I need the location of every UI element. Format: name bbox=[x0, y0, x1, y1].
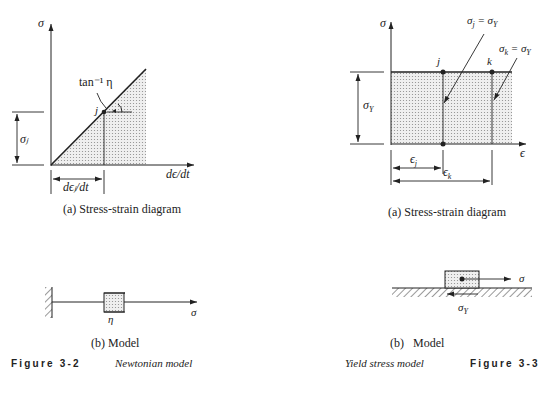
point-j bbox=[441, 70, 446, 75]
newtonian-dashpot-model bbox=[45, 287, 197, 318]
yield-friction-block-model bbox=[392, 271, 532, 297]
ground-hatch bbox=[392, 288, 532, 297]
left-force-label: σ bbox=[191, 306, 196, 318]
right-caption-b: (b) Model bbox=[390, 336, 444, 351]
left-caption-b: (b) Model bbox=[91, 336, 139, 351]
point-k-label: k bbox=[487, 55, 492, 67]
right-figure-number: Figure 3-3 bbox=[470, 358, 540, 369]
left-caption-a: (a) Stress-strain diagram bbox=[63, 202, 181, 217]
annot-k-label: σk = σY bbox=[499, 42, 531, 57]
left-figure-title: Newtonian model bbox=[115, 357, 192, 369]
left-figure-number: Figure 3-2 bbox=[11, 358, 81, 369]
dashpot-label: η bbox=[108, 313, 113, 325]
stress-dim-label: σⱼ bbox=[20, 132, 28, 147]
point-j-label: j bbox=[95, 104, 98, 116]
rate-dim-label: dϵⱼ/dt bbox=[63, 180, 89, 195]
right-force-label: σ bbox=[519, 272, 524, 284]
point-j bbox=[102, 110, 107, 115]
right-caption-a: (a) Stress-strain diagram bbox=[388, 205, 506, 220]
annot-j-label: σj = σY bbox=[467, 14, 497, 29]
strain-j-label: ϵj bbox=[410, 152, 417, 168]
left-x-axis-label: dϵ/dt bbox=[166, 167, 190, 182]
yield-dim-label: σY bbox=[363, 98, 373, 114]
right-figure-title: Yield stress model bbox=[345, 357, 424, 369]
friction-label: σY bbox=[458, 301, 468, 316]
strain-k-label: ϵk bbox=[443, 165, 451, 181]
wall-hatch bbox=[45, 287, 52, 318]
shaded-region bbox=[391, 72, 512, 144]
point-j-label: j bbox=[437, 55, 440, 67]
left-y-axis-label: σ bbox=[38, 16, 44, 31]
dashpot-piston bbox=[104, 293, 124, 312]
point-k bbox=[490, 70, 495, 75]
right-y-axis-label: σ bbox=[380, 16, 386, 31]
slope-label: tan⁻¹ η bbox=[79, 75, 113, 90]
point-origin-j bbox=[441, 142, 446, 147]
slope-leader-arrow bbox=[97, 93, 106, 108]
figure-canvas bbox=[0, 0, 551, 393]
right-x-axis-label: ϵ bbox=[520, 146, 525, 161]
